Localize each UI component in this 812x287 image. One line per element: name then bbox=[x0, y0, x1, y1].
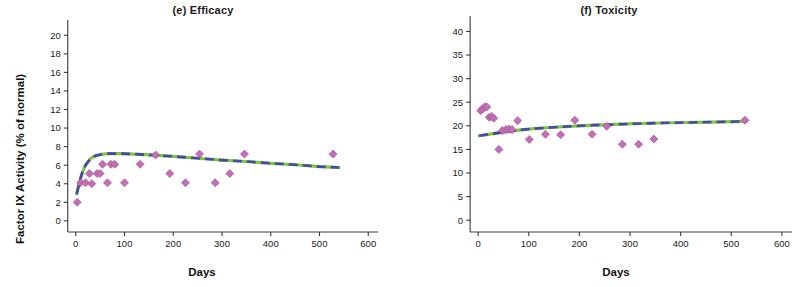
y-tick-label: 30 bbox=[453, 73, 464, 84]
data-point-marker bbox=[73, 198, 81, 206]
x-tick-label: 100 bbox=[117, 238, 133, 249]
y-tick-label: 14 bbox=[50, 85, 61, 96]
y-tick-label: 18 bbox=[50, 48, 61, 59]
y-tick-label: 25 bbox=[453, 97, 464, 108]
data-point-marker bbox=[650, 135, 658, 143]
y-tick-label: 10 bbox=[453, 167, 464, 178]
y-tick-label: 40 bbox=[453, 26, 464, 37]
y-tick-label: 4 bbox=[55, 178, 60, 189]
x-tick-label: 0 bbox=[73, 238, 78, 249]
x-tick-label: 400 bbox=[673, 238, 689, 249]
data-point-marker bbox=[121, 179, 129, 187]
x-tick-label: 200 bbox=[165, 238, 181, 249]
data-point-marker bbox=[557, 131, 565, 139]
data-point-marker bbox=[211, 179, 219, 187]
data-point-marker bbox=[588, 130, 596, 138]
y-tick-label: 5 bbox=[458, 191, 463, 202]
data-point-marker bbox=[226, 170, 234, 178]
data-point-marker bbox=[495, 145, 503, 153]
y-tick-label: 6 bbox=[55, 160, 60, 171]
x-tick-label: 0 bbox=[475, 238, 480, 249]
y-tick-label: 16 bbox=[50, 67, 61, 78]
panel-toxicity: (f) Toxicity ALT (IU/liter) Days 0510152… bbox=[406, 0, 812, 287]
data-point-marker bbox=[514, 117, 522, 125]
data-point-marker bbox=[329, 150, 337, 158]
y-tick-label: 15 bbox=[453, 144, 464, 155]
x-tick-label: 300 bbox=[622, 238, 638, 249]
data-point-marker bbox=[618, 140, 626, 148]
y-tick-label: 0 bbox=[458, 215, 463, 226]
data-point-marker bbox=[103, 179, 111, 187]
y-tick-label: 35 bbox=[453, 49, 464, 60]
data-point-marker bbox=[541, 130, 549, 138]
data-point-marker bbox=[571, 116, 579, 124]
y-tick-label: 12 bbox=[50, 104, 61, 115]
x-tick-label: 200 bbox=[571, 238, 587, 249]
x-tick-label: 600 bbox=[774, 238, 790, 249]
x-tick-label: 600 bbox=[360, 238, 376, 249]
y-tick-label: 8 bbox=[55, 141, 60, 152]
data-point-marker bbox=[152, 151, 160, 159]
x-tick-label: 500 bbox=[312, 238, 328, 249]
data-point-marker bbox=[525, 136, 533, 144]
y-tick-label: 2 bbox=[55, 197, 60, 208]
data-point-marker bbox=[635, 140, 643, 148]
x-tick-label: 300 bbox=[214, 238, 230, 249]
y-tick-label: 20 bbox=[50, 30, 61, 41]
data-point-marker bbox=[166, 170, 174, 178]
data-point-marker bbox=[136, 160, 144, 168]
plot-area-efficacy: 024681012141618200100200300400500600 bbox=[0, 0, 406, 287]
data-point-marker bbox=[181, 179, 189, 187]
fit-curve-blue-dashed bbox=[77, 154, 339, 194]
panel-efficacy: (e) Efficacy Factor IX Activity (% of no… bbox=[0, 0, 406, 287]
x-tick-label: 400 bbox=[263, 238, 279, 249]
data-point-marker bbox=[99, 160, 107, 168]
data-point-marker bbox=[85, 170, 93, 178]
y-tick-label: 0 bbox=[55, 215, 60, 226]
x-tick-label: 100 bbox=[521, 238, 537, 249]
y-tick-label: 20 bbox=[453, 120, 464, 131]
data-point-marker bbox=[240, 150, 248, 158]
figure-panels-row: (e) Efficacy Factor IX Activity (% of no… bbox=[0, 0, 812, 287]
plot-area-toxicity: 05101520253035400100200300400500600 bbox=[406, 0, 812, 287]
x-tick-label: 500 bbox=[723, 238, 739, 249]
y-tick-label: 10 bbox=[50, 122, 61, 133]
data-point-marker bbox=[88, 180, 96, 188]
